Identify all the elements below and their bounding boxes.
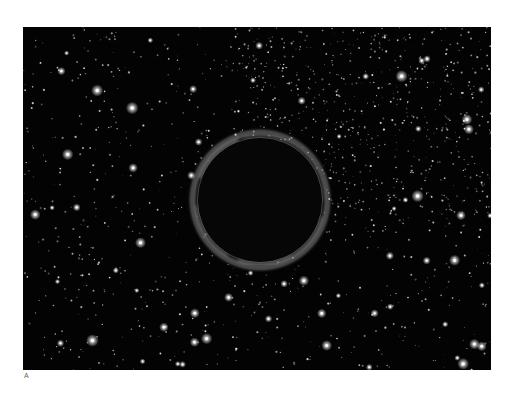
space-image [23,27,491,370]
black-hole [187,127,333,273]
starfield [23,27,491,370]
panel-label: A [24,372,29,380]
